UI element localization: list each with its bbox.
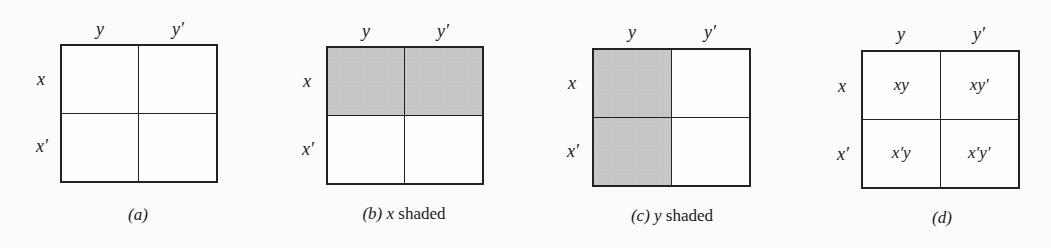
caption-d: (d) bbox=[932, 208, 952, 228]
row-label-x: x bbox=[838, 77, 846, 95]
row-label-x-prime: x′ bbox=[837, 145, 849, 163]
caption-letter: (d) bbox=[932, 208, 952, 227]
panel-d: y y′ x x′ xy xy′ x′y x′y′ (d) bbox=[0, 0, 1051, 248]
column-label-y-prime: y′ bbox=[973, 25, 985, 43]
column-label-y: y bbox=[897, 25, 905, 43]
cell-xy: xy bbox=[863, 52, 941, 120]
cell-xy-prime: xy′ bbox=[941, 52, 1019, 120]
cell-x-prime-y-prime: x′y′ bbox=[941, 120, 1019, 188]
venn-grid-d: xy xy′ x′y x′y′ bbox=[861, 50, 1020, 189]
cell-x-prime-y: x′y bbox=[863, 120, 941, 188]
